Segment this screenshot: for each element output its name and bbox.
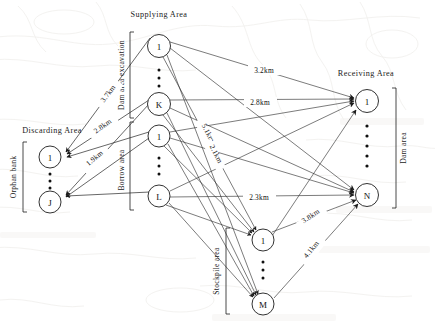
node-discard-1[interactable]: 1: [39, 146, 61, 168]
receiving-ellipsis: [365, 124, 368, 167]
brace-orphan-bank: [23, 142, 27, 212]
node-label: 1: [365, 97, 370, 107]
edges-stockpile-to-receiving: [272, 110, 358, 298]
node-receive-1[interactable]: 1: [356, 90, 379, 113]
node-discard-J[interactable]: J: [39, 191, 61, 213]
distance-label-2.8km-right: 2.8km: [244, 97, 277, 107]
supplying-dam-ellipsis: [158, 69, 161, 88]
edges-to-stockpile: [163, 55, 258, 297]
discarding-ellipsis: [49, 173, 52, 190]
node-label: L: [156, 192, 162, 202]
node-supply-dam-K[interactable]: K: [148, 93, 171, 116]
node-label: M: [259, 300, 267, 310]
node-supply-borrow-1[interactable]: 1: [148, 125, 170, 147]
distance-label-2.8km-left: 2.8km: [88, 115, 120, 142]
discarding-area-title: Discarding Area: [22, 126, 81, 135]
distance-text: 3.2km: [254, 66, 274, 75]
node-supply-dam-1[interactable]: 1: [148, 35, 171, 58]
brace-borrow-area: [130, 122, 134, 210]
stockpile-side-label: Stockpile area: [212, 247, 221, 295]
node-label: 1: [48, 153, 53, 163]
discarding-side-label: Orphan bank: [9, 156, 18, 199]
receiving-area-title: Receiving Area: [338, 69, 394, 78]
network-graph: Supplying Area Dam area excavation 1 K B…: [0, 0, 435, 331]
distance-label-3.8km: 3.8km: [296, 205, 328, 231]
node-label: N: [364, 191, 371, 201]
node-supply-borrow-L[interactable]: L: [148, 185, 170, 207]
supplying-area-title: Supplying Area: [131, 10, 188, 19]
distance-label-2.3km: 2.3km: [243, 192, 276, 202]
distance-label-3.2km: 3.2km: [248, 65, 280, 75]
brace-dam-area-excavation: [130, 32, 134, 118]
distance-label-1.9km: 1.9km: [81, 146, 112, 174]
node-stockpile-1[interactable]: 1: [252, 229, 274, 251]
node-label: 1: [157, 42, 162, 52]
node-label: K: [156, 100, 163, 110]
diagram-canvas: Supplying Area Dam area excavation 1 K B…: [0, 0, 435, 331]
brace-dam-area: [392, 88, 396, 208]
node-receive-N[interactable]: N: [356, 184, 379, 207]
stockpile-ellipsis: [262, 261, 265, 280]
supplying-borrow-ellipsis: [158, 157, 161, 176]
distance-label-2.1km: 2.1km: [202, 138, 225, 171]
supplying-subgroup-label-borrow: Borrow area: [117, 149, 126, 190]
distance-label-4.1km: 4.1km: [299, 236, 327, 267]
node-label: 1: [157, 132, 162, 142]
node-stockpile-M[interactable]: M: [252, 293, 274, 315]
receiving-side-label: Dam area: [399, 132, 408, 164]
node-label: 1: [261, 236, 266, 246]
node-label: J: [48, 198, 52, 208]
distance-text: 2.3km: [249, 193, 269, 202]
distance-text: 2.8km: [250, 98, 270, 107]
supplying-subgroup-label-dam: Dam area excavation: [117, 40, 126, 110]
